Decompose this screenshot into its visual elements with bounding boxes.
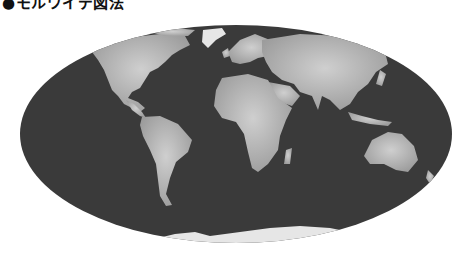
world-map [0, 0, 465, 260]
